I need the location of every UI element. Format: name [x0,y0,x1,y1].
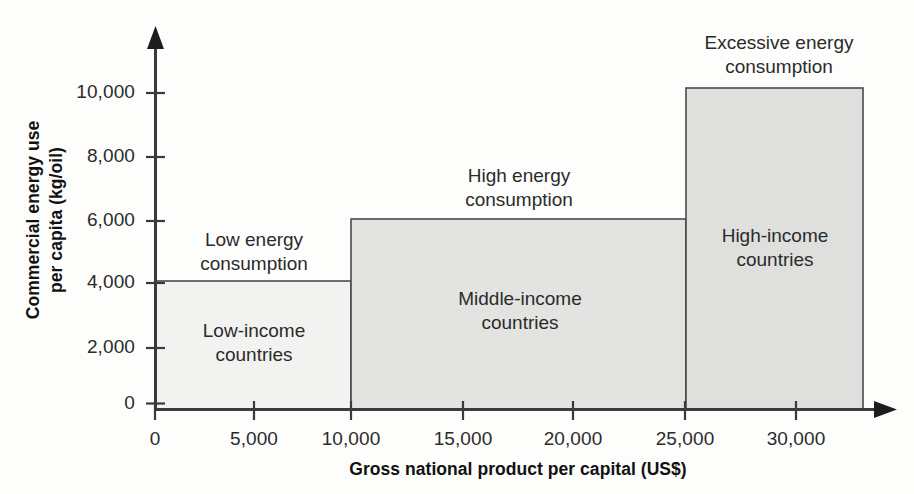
bar-label-high-income-line1: High-income [722,225,829,246]
x-tick-label-15000: 15,000 [413,428,513,450]
y-axis-title: Commercial energy useper capita (kg/oil) [22,40,68,400]
bar-caption-high-energy: High energyconsumption [438,164,600,213]
bar-label-low-income-line2: countries [215,344,292,365]
bar-caption-low-energy: Low energyconsumption [176,228,332,277]
x-tick-label-10000: 10,000 [301,428,401,450]
x-tick-label-30000: 30,000 [746,428,846,450]
x-axis-title: Gross national product per capital (US$) [155,459,881,480]
bar-caption-low-energy-line2: consumption [200,253,308,274]
bar-caption-excessive-energy-line2: consumption [725,56,833,77]
bar-caption-excessive-energy: Excessive energyconsumption [684,31,874,80]
bar-caption-high-energy-line1: High energy [468,165,570,186]
bar-caption-excessive-energy-line1: Excessive energy [705,32,854,53]
x-tick-label-0: 0 [115,428,195,450]
x-tick-label-25000: 25,000 [635,428,735,450]
y-axis-title-line2: per capita (kg/oil) [46,147,66,293]
x-axis-arrowhead [874,401,897,418]
x-tick-label-5000: 5,000 [214,428,294,450]
x-tick-label-20000: 20,000 [523,428,623,450]
bar-caption-low-energy-line1: Low energy [205,229,303,250]
bar-label-low-income: Low-incomecountries [172,319,336,368]
bar-label-middle-income-line2: countries [481,312,558,333]
energy-gnp-bar-chart: 0 2,000 4,000 6,000 8,000 10,000 0 5,000… [0,0,914,494]
bar-label-middle-income-line1: Middle-income [458,288,582,309]
bar-caption-high-energy-line2: consumption [465,189,573,210]
bar-label-high-income-line2: countries [736,249,813,270]
bar-label-low-income-line1: Low-income [203,320,305,341]
y-axis-title-line1: Commercial energy use [23,121,43,320]
bar-label-high-income: High-incomecountries [692,224,858,273]
bar-label-middle-income: Middle-incomecountries [432,287,608,336]
y-axis-arrowhead [147,26,164,49]
